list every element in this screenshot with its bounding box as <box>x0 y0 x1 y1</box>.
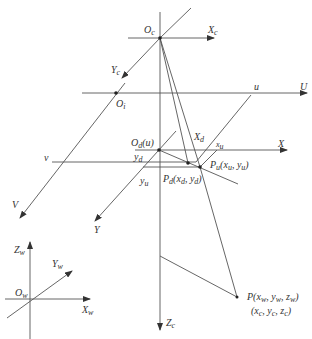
v-axis <box>20 83 125 218</box>
u-parallel-line <box>196 95 251 162</box>
u-label: u <box>254 81 259 92</box>
yw-label: Yw <box>52 258 64 271</box>
yc-axis <box>122 38 160 78</box>
ow-label: Ow <box>15 287 28 300</box>
pd-point <box>186 161 190 165</box>
camera-model-diagram: Oc Xc Yc Oi u U V v Od(u) Xd xu X Y yd y… <box>0 0 312 339</box>
yc-label: Yc <box>111 64 121 77</box>
oc-point <box>158 36 162 40</box>
p-world-label: P(xw, yw, zw) <box>246 291 299 304</box>
pd-label: Pd(xd, yd) <box>162 173 202 186</box>
pu-point <box>198 165 202 169</box>
zw-label: Zw <box>14 244 26 257</box>
ray-to-pu <box>160 38 200 167</box>
y-axis-label: Y <box>94 224 101 235</box>
p-camera-label: (xc, yc, zc) <box>251 305 292 318</box>
oi-point <box>114 91 118 95</box>
yu-label: yu <box>139 175 148 188</box>
u-axis-label: U <box>300 81 308 92</box>
xd-label: Xd <box>193 131 205 144</box>
oi-label: Oi <box>116 98 125 111</box>
od-label: Od(u) <box>131 137 155 150</box>
p-projection-line <box>160 256 237 297</box>
oc-label: Oc <box>144 24 155 37</box>
x-axis-label: X <box>277 138 285 149</box>
v-label: v <box>44 152 49 163</box>
od-point <box>157 148 161 152</box>
xc-label: Xc <box>207 24 218 37</box>
yc-axis-upper <box>160 8 191 38</box>
v-axis-label: V <box>12 199 20 210</box>
pu-label: Pu(xu, yu) <box>209 159 249 172</box>
zc-label: Zc <box>166 317 176 330</box>
ray-to-p <box>200 167 237 297</box>
xu-label: xu <box>215 140 224 151</box>
p-point <box>236 296 239 299</box>
xw-label: Xw <box>81 304 94 317</box>
